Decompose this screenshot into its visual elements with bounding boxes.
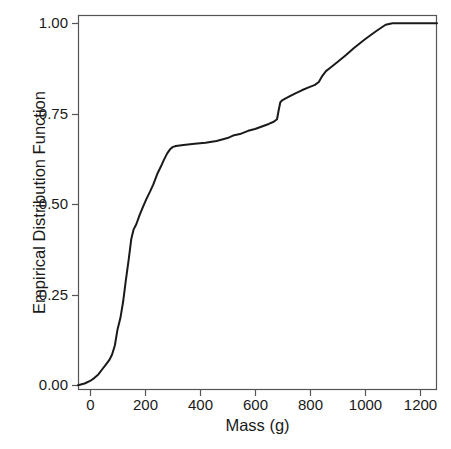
ecdf-line <box>78 23 437 385</box>
plot-canvas <box>0 0 451 449</box>
plot-frame <box>79 16 437 390</box>
y-axis-ticks <box>72 24 78 386</box>
data-series-group <box>78 23 437 385</box>
plot-border <box>79 16 437 390</box>
x-axis-ticks <box>91 390 421 396</box>
chart-figure: Empirical Distribution Function 0.000.25… <box>0 0 451 449</box>
